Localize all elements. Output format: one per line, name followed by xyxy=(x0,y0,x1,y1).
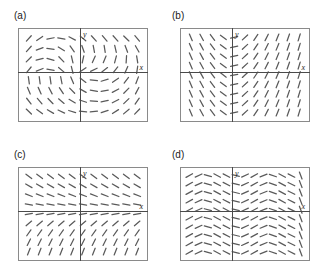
plot-area-d: xy xyxy=(180,167,310,261)
x-axis-label: x xyxy=(300,202,305,211)
y-axis-label: y xyxy=(234,169,239,178)
slope-field-figure: (a)xy(b)xy(c)xy(d)xy xyxy=(0,0,322,278)
panel-d: (d)xy xyxy=(0,0,322,278)
plot-frame xyxy=(181,168,310,261)
panel-label-d: (d) xyxy=(172,149,184,160)
